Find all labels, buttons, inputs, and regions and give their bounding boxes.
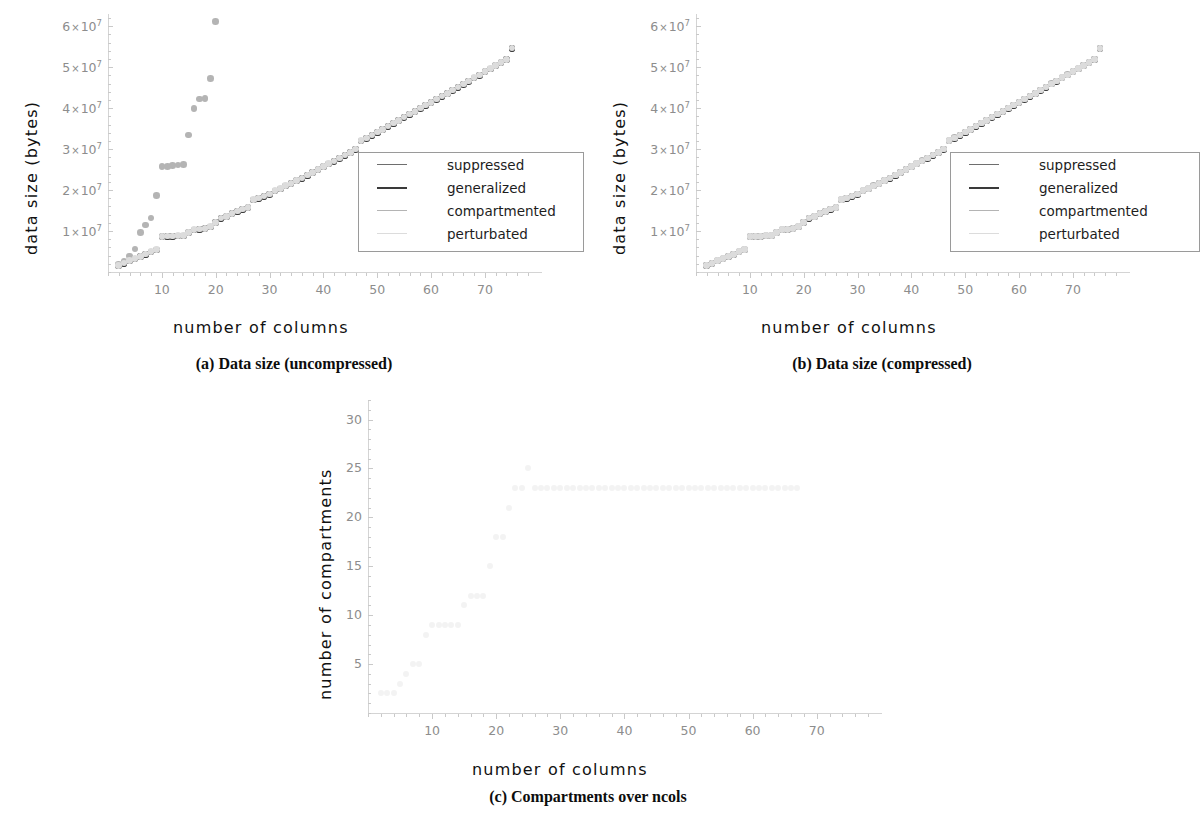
data-point: [429, 622, 435, 628]
panel-b-x-axis-label: number of columns: [761, 318, 937, 337]
y-minor-tick: [368, 488, 371, 489]
legend-label: compartmented: [447, 203, 556, 219]
data-point: [570, 485, 576, 491]
y-tick: [108, 108, 113, 109]
x-tick: [911, 273, 912, 278]
x-tick-label: 70: [805, 723, 829, 738]
y-minor-tick: [368, 429, 371, 430]
y-minor-tick: [696, 18, 699, 19]
x-minor-tick: [987, 273, 988, 276]
y-tick-label: 30: [328, 412, 362, 427]
legend-row: compartmented: [951, 199, 1199, 222]
y-minor-tick: [696, 34, 699, 35]
y-tick: [368, 566, 373, 567]
x-tick: [1073, 273, 1074, 278]
data-point: [525, 465, 531, 471]
y-minor-tick: [108, 125, 111, 126]
y-minor-tick: [368, 508, 371, 509]
x-minor-tick: [108, 273, 109, 276]
data-point: [621, 485, 627, 491]
y-minor-tick: [696, 133, 699, 134]
x-tick-label: 10: [150, 282, 174, 297]
data-point: [775, 485, 781, 491]
x-minor-tick: [868, 714, 869, 717]
legend-swatch-suppressed: [969, 164, 999, 165]
panel-a-y-axis-label: data size (bytes): [22, 101, 41, 255]
data-point: [686, 485, 692, 491]
x-minor-tick: [535, 714, 536, 717]
x-tick: [431, 273, 432, 278]
y-minor-tick: [108, 182, 111, 183]
y-tick-label: 6×107: [628, 18, 690, 34]
y-axis-line: [108, 14, 109, 272]
y-minor-tick: [108, 247, 111, 248]
y-minor-tick: [696, 198, 699, 199]
y-minor-tick: [108, 92, 111, 93]
panel-c-compartments-over-ncols: number of compartments number of columns…: [294, 390, 882, 820]
x-minor-tick: [637, 714, 638, 717]
x-minor-tick: [933, 273, 934, 276]
data-point: [737, 485, 743, 491]
x-minor-tick: [483, 714, 484, 717]
y-tick: [108, 190, 113, 191]
y-minor-tick: [368, 693, 371, 694]
panel-b-legend: suppressedgeneralizedcompartmentedpertur…: [950, 152, 1200, 252]
panel-a-x-axis-label: number of columns: [173, 318, 349, 337]
y-tick: [108, 231, 113, 232]
x-tick-label: 30: [258, 282, 282, 297]
y-tick: [108, 67, 113, 68]
x-minor-tick: [830, 714, 831, 717]
y-minor-tick: [696, 239, 699, 240]
legend-row: perturbated: [359, 222, 583, 245]
data-point: [461, 602, 467, 608]
y-minor-tick: [108, 239, 111, 240]
x-tick-label: 60: [1007, 282, 1031, 297]
legend-row: suppressed: [359, 153, 583, 176]
x-tick: [216, 273, 217, 278]
x-tick: [750, 273, 751, 278]
panel-c-plot-area: 5101520253010203040506070: [368, 400, 868, 713]
x-minor-tick: [509, 714, 510, 717]
x-minor-tick: [868, 273, 869, 276]
x-minor-tick: [573, 714, 574, 717]
data-point: [730, 485, 736, 491]
data-point: [503, 56, 510, 63]
y-minor-tick: [696, 256, 699, 257]
y-tick: [368, 468, 373, 469]
y-minor-tick: [368, 703, 371, 704]
legend-label: compartmented: [1039, 203, 1148, 219]
x-minor-tick: [442, 273, 443, 276]
y-minor-tick: [108, 51, 111, 52]
data-point: [564, 485, 570, 491]
x-tick-label: 60: [419, 282, 443, 297]
x-minor-tick: [740, 714, 741, 717]
y-minor-tick: [696, 264, 699, 265]
data-point: [741, 246, 748, 253]
x-tick-label: 20: [484, 723, 508, 738]
y-minor-tick: [108, 264, 111, 265]
data-point: [180, 161, 187, 168]
y-minor-tick: [696, 247, 699, 248]
data-point: [378, 690, 384, 696]
x-minor-tick: [676, 714, 677, 717]
data-point: [506, 505, 512, 511]
y-minor-tick: [696, 182, 699, 183]
x-minor-tick: [517, 273, 518, 276]
y-minor-tick: [696, 166, 699, 167]
x-minor-tick: [1008, 273, 1009, 276]
legend-label: generalized: [1039, 180, 1118, 196]
data-point: [609, 485, 615, 491]
y-tick: [368, 517, 373, 518]
y-minor-tick: [696, 59, 699, 60]
y-minor-tick: [696, 43, 699, 44]
data-point: [474, 593, 480, 599]
y-minor-tick: [368, 605, 371, 606]
y-minor-tick: [696, 100, 699, 101]
data-point: [391, 690, 397, 696]
x-minor-tick: [410, 273, 411, 276]
y-minor-tick: [108, 198, 111, 199]
x-minor-tick: [976, 273, 977, 276]
x-tick: [496, 714, 497, 719]
y-minor-tick: [368, 684, 371, 685]
data-point: [711, 485, 717, 491]
